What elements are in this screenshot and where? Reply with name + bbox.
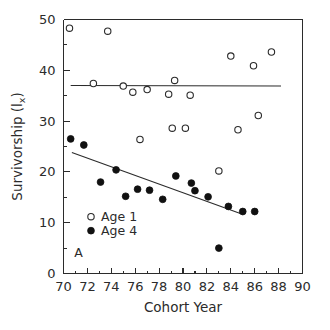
data-point-age-1 xyxy=(255,112,261,118)
y-tick-label: 20 xyxy=(39,164,56,179)
data-point-age-1 xyxy=(130,89,136,95)
data-point-age-4 xyxy=(159,196,166,203)
x-axis-title: Cohort Year xyxy=(144,299,223,315)
y-tick-label: 30 xyxy=(39,114,56,129)
chart-canvas: 707274767880828486889001020304050Cohort … xyxy=(0,0,330,330)
data-point-age-1 xyxy=(137,136,143,142)
plot-frame-border xyxy=(64,20,303,274)
data-point-age-1 xyxy=(120,83,126,89)
x-tick-label: 70 xyxy=(55,279,72,294)
y-tick-label: 40 xyxy=(39,63,56,78)
data-point-age-4 xyxy=(205,193,212,200)
y-tick-label: 0 xyxy=(47,266,55,281)
x-tick-label: 86 xyxy=(246,279,263,294)
y-axis-title: Survivorship (lx) xyxy=(9,92,27,200)
data-point-age-1 xyxy=(216,168,222,174)
data-point-age-1 xyxy=(105,28,111,34)
data-point-age-1 xyxy=(144,86,150,92)
legend-label-age-1: Age 1 xyxy=(101,209,137,224)
x-tick-label: 76 xyxy=(127,279,144,294)
panel-label: A xyxy=(74,245,83,260)
x-tick-label: 88 xyxy=(270,279,287,294)
data-point-age-4 xyxy=(251,208,258,215)
data-point-age-1 xyxy=(187,92,193,98)
data-point-age-4 xyxy=(239,208,246,215)
data-point-age-1 xyxy=(228,53,234,59)
x-tick-label: 74 xyxy=(103,279,120,294)
x-tick-label: 84 xyxy=(223,279,240,294)
x-tick-label: 72 xyxy=(79,279,96,294)
data-point-age-4 xyxy=(188,180,195,187)
data-point-age-4 xyxy=(146,187,153,194)
legend-marker-age-1 xyxy=(88,213,94,219)
data-point-age-1 xyxy=(66,25,72,31)
data-point-age-4 xyxy=(113,166,120,173)
data-point-age-4 xyxy=(67,135,74,142)
data-point-age-4 xyxy=(134,186,141,193)
axis-spines xyxy=(64,20,303,274)
y-axis-title-text: Survivorship (lx) xyxy=(9,92,27,200)
x-tick-label: 82 xyxy=(199,279,216,294)
x-tick-label: 90 xyxy=(294,279,311,294)
data-point-age-4 xyxy=(172,173,179,180)
legend-label-age-4: Age 4 xyxy=(101,223,137,238)
data-point-age-1 xyxy=(165,91,171,97)
data-point-age-4 xyxy=(80,142,87,149)
data-point-age-4 xyxy=(97,179,104,186)
data-point-age-1 xyxy=(169,125,175,131)
data-point-age-1 xyxy=(250,63,256,69)
regression-line-age-1 xyxy=(71,86,281,87)
data-point-age-1 xyxy=(90,80,96,86)
survivorship-scatter-figure: 707274767880828486889001020304050Cohort … xyxy=(0,0,330,330)
y-tick-label: 10 xyxy=(39,215,56,230)
x-tick-label: 78 xyxy=(151,279,168,294)
data-point-age-4 xyxy=(122,193,129,200)
legend-marker-age-4 xyxy=(88,227,95,234)
data-point-age-4 xyxy=(192,187,199,194)
data-point-age-1 xyxy=(171,77,177,83)
x-tick-label: 80 xyxy=(175,279,192,294)
data-point-age-1 xyxy=(268,49,274,55)
data-point-age-1 xyxy=(182,125,188,131)
data-point-age-4 xyxy=(215,245,222,252)
data-point-age-1 xyxy=(235,127,241,133)
y-tick-label: 50 xyxy=(39,12,56,27)
data-point-age-4 xyxy=(225,203,232,210)
